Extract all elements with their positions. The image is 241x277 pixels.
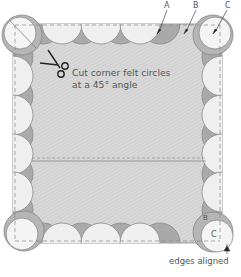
label-c-bottom: C [211, 230, 217, 239]
label-b-bottom: B [203, 214, 208, 222]
corner-circle-top-left [2, 15, 42, 55]
caption: Cut corner felt circles at a 45° angle [72, 67, 170, 91]
caption-line-2: at a 45° angle [72, 79, 170, 91]
corner-circle-top-right [193, 15, 233, 55]
label-b: B [193, 1, 199, 10]
label-a: A [164, 1, 169, 10]
corner-circle-bottom-left [4, 211, 44, 251]
felt-circle-diagram [0, 0, 241, 277]
caption-line-1: Cut corner felt circles [72, 67, 170, 79]
label-c: C [225, 1, 231, 10]
fabric-square [13, 24, 222, 243]
label-edges-aligned: edges aligned [169, 256, 229, 266]
